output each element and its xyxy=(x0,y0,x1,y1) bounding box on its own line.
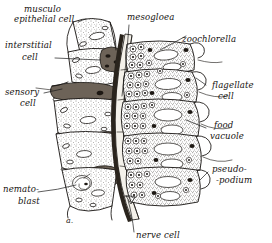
zoochlorella xyxy=(133,104,139,110)
figure-root: musculo epithelial cell interstitial cel… xyxy=(0,0,272,243)
endoderm-nucleus xyxy=(150,91,155,95)
cell-vesicle xyxy=(90,203,96,206)
hydra-body-wall-diagram: musculo epithelial cell interstitial cel… xyxy=(0,0,272,243)
zoochlorella xyxy=(149,102,154,107)
zoochlorella xyxy=(138,53,144,59)
label-sensory-cell-line1: sensory xyxy=(5,87,39,97)
zoochlorella xyxy=(133,138,139,144)
zoochlorella xyxy=(126,148,132,154)
food-vacuole xyxy=(154,109,182,121)
zoochlorella xyxy=(142,90,148,96)
interstitial-cell-nucleus xyxy=(105,64,109,67)
leader-pseudopodium xyxy=(200,172,208,180)
label-nematoblast-line1: nemato- xyxy=(3,184,39,194)
zoochlorella xyxy=(132,113,138,119)
label-interstitial-cell-line1: interstitial xyxy=(5,40,52,50)
cell-vesicle xyxy=(105,112,111,116)
endoderm-nucleus xyxy=(185,78,190,82)
zoochlorella xyxy=(186,157,191,162)
zoochlorella xyxy=(146,60,152,66)
zoochlorella xyxy=(130,46,136,52)
cell-vesicle xyxy=(101,127,107,130)
zoochlorella xyxy=(141,138,147,144)
label-food-vacuole-line2: vacuole xyxy=(210,131,244,141)
zoochlorella xyxy=(126,91,132,97)
endoderm-nucleus xyxy=(189,144,194,148)
zoochlorella xyxy=(130,54,136,60)
zoochlorella xyxy=(157,68,162,73)
label-nerve-cell: nerve cell xyxy=(136,230,180,240)
endoderm-nucleus xyxy=(183,48,188,52)
zoochlorella xyxy=(137,182,143,188)
zoochlorella xyxy=(184,92,189,97)
label-zoochlorella: zoochlorella xyxy=(181,34,236,44)
zoochlorella xyxy=(183,187,188,192)
label-nematoblast-line2: blast xyxy=(18,196,40,206)
zoochlorella xyxy=(129,62,135,68)
zoochlorella xyxy=(137,62,143,68)
zoochlorella xyxy=(142,148,148,154)
label-flagellate-cell-line1: flagellate xyxy=(211,80,254,90)
zoochlorella xyxy=(125,104,131,110)
zoochlorella xyxy=(141,103,147,109)
zoochlorella xyxy=(129,182,135,188)
food-vacuole xyxy=(154,143,182,155)
food-vacuole xyxy=(155,177,181,188)
endoderm-nucleus xyxy=(152,124,157,128)
zoochlorella xyxy=(155,193,160,198)
zoochlorella xyxy=(144,71,150,77)
endoderm-nucleus xyxy=(154,158,159,162)
zoochlorella xyxy=(134,91,140,97)
zoochlorella xyxy=(127,82,133,88)
leader-flagellate-cell xyxy=(196,78,206,85)
zoochlorella xyxy=(143,81,149,87)
cell-vesicle xyxy=(67,160,74,164)
label-flagellate-cell-line2: cell xyxy=(218,91,234,101)
zoochlorella xyxy=(180,61,185,66)
label-sensory-cell-line2: cell xyxy=(20,98,36,108)
label-food-vacuole-line1: food xyxy=(213,120,234,130)
zoochlorella xyxy=(135,158,141,164)
zoochlorella xyxy=(138,44,144,50)
ectoderm-bottom-edge xyxy=(111,206,112,220)
flagellum xyxy=(203,157,232,161)
flagella-group xyxy=(198,60,232,161)
zoochlorella xyxy=(132,123,138,129)
zoochlorella xyxy=(139,192,145,198)
cell-vesicle xyxy=(102,26,108,29)
zoochlorella xyxy=(136,72,142,78)
label-musculo-epithelial-cell-line2: epithelial cell xyxy=(14,14,75,24)
label-pseudopodium-line1: pseudo- xyxy=(212,164,247,174)
zoochlorella xyxy=(135,82,141,88)
zoochlorella xyxy=(140,113,146,119)
zoochlorella xyxy=(127,158,133,164)
label-mesogloea: mesogloea xyxy=(127,12,174,22)
label-interstitial-cell-line2: cell xyxy=(22,52,38,62)
zoochlorella xyxy=(125,138,131,144)
label-pseudopodium-line2: -podium xyxy=(216,175,252,185)
zoochlorella xyxy=(124,113,130,119)
zoochlorella xyxy=(124,123,130,129)
zoochlorella xyxy=(128,172,134,178)
label-musculo-epithelial-cell-line1: musculo xyxy=(24,4,61,14)
endoderm-nucleus xyxy=(148,48,153,52)
zoochlorella xyxy=(134,148,140,154)
endoderm-nucleus xyxy=(187,110,192,114)
zoochlorella xyxy=(128,73,134,79)
figure-marker: a. xyxy=(66,216,73,225)
cell-vesicle xyxy=(76,198,82,202)
flagellum xyxy=(198,60,222,63)
endoderm-nucleus xyxy=(187,178,192,182)
interstitial-cell-nucleus xyxy=(105,54,110,58)
food-vacuole xyxy=(160,192,180,201)
zoochlorella xyxy=(140,123,146,129)
zoochlorella xyxy=(144,171,150,177)
zoochlorella xyxy=(136,172,142,178)
